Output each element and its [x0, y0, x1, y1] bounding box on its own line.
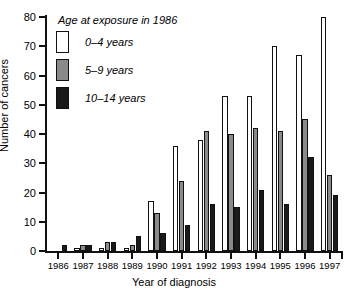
legend-title: Age at exposure in 1986 [58, 14, 177, 26]
legend-entry: 10–14 years [56, 87, 177, 109]
y-tick-mark [39, 162, 46, 164]
x-tick-label: 1995 [270, 261, 291, 271]
bar-group [272, 17, 290, 251]
x-tick-label: 1993 [220, 261, 241, 271]
legend-swatch [56, 59, 69, 81]
y-tick-label: 10 [0, 216, 36, 227]
x-tick-mark [230, 253, 232, 259]
y-axis-title: Number of cancers [0, 59, 10, 152]
y-tick-label: 70 [0, 41, 36, 52]
bar [204, 131, 210, 251]
x-axis-title: Year of diagnosis [0, 276, 348, 288]
x-tick-label: 1986 [48, 261, 69, 271]
x-tick-mark [131, 253, 133, 259]
legend: Age at exposure in 1986 0–4 years5–9 yea… [56, 14, 177, 115]
y-tick-mark [39, 192, 46, 194]
x-tick-label: 1991 [171, 261, 192, 271]
legend-entry: 0–4 years [56, 31, 177, 53]
bar [210, 204, 216, 251]
x-tick-label: 1992 [196, 261, 217, 271]
x-tick-mark [304, 253, 306, 259]
y-tick-label: 30 [0, 158, 36, 169]
bar [278, 131, 284, 251]
bar [154, 213, 160, 251]
x-tick-mark [205, 253, 207, 259]
y-tick-mark [39, 133, 46, 135]
bar [62, 245, 68, 251]
bar [253, 128, 259, 251]
bar [321, 17, 327, 251]
legend-swatch [56, 31, 69, 53]
bar [327, 175, 333, 251]
x-axis-line [45, 251, 343, 253]
y-tick-label: 20 [0, 187, 36, 198]
bar-group [296, 17, 314, 251]
x-tick-mark [156, 253, 158, 259]
legend-label: 5–9 years [85, 64, 133, 76]
bar [160, 233, 166, 251]
bar [308, 157, 314, 251]
x-tick-mark [107, 253, 109, 259]
bar [99, 248, 105, 251]
y-tick-mark [39, 104, 46, 106]
bar [185, 225, 191, 251]
bar [111, 242, 117, 251]
bar [234, 207, 240, 251]
chart-figure: 01020304050607080 Number of cancers 1986… [0, 0, 348, 292]
x-tick-label: 1990 [146, 261, 167, 271]
y-tick-mark [39, 221, 46, 223]
legend-label: 10–14 years [85, 92, 146, 104]
bar [198, 140, 204, 251]
x-tick-label: 1997 [319, 261, 340, 271]
y-tick-label: 0 [0, 246, 36, 257]
x-tick-label: 1994 [245, 261, 266, 271]
legend-entries: 0–4 years5–9 years10–14 years [56, 31, 177, 109]
x-tick-label: 1996 [294, 261, 315, 271]
x-tick-label: 1989 [122, 261, 143, 271]
bar [296, 55, 302, 251]
x-tick-mark [329, 253, 331, 259]
bar [333, 195, 339, 251]
bar [247, 96, 253, 251]
legend-entry: 5–9 years [56, 59, 177, 81]
legend-label: 0–4 years [85, 36, 133, 48]
bar [136, 236, 142, 251]
bar-group [198, 17, 216, 251]
y-tick-mark [39, 45, 46, 47]
x-tick-mark [82, 253, 84, 259]
y-tick-mark [39, 16, 46, 18]
bar-group [247, 17, 265, 251]
bar [86, 245, 92, 251]
bar [80, 245, 86, 251]
legend-swatch [56, 87, 69, 109]
bar [259, 190, 265, 251]
x-tick-mark [341, 253, 343, 259]
bar [105, 242, 111, 251]
bar [130, 245, 136, 251]
bar [284, 204, 290, 251]
x-tick-label: 1987 [72, 261, 93, 271]
bar [228, 134, 234, 251]
bar [179, 181, 185, 251]
bar [173, 146, 179, 251]
bar [222, 96, 228, 251]
x-tick-mark [255, 253, 257, 259]
x-tick-label: 1988 [97, 261, 118, 271]
y-tick-label: 80 [0, 12, 36, 23]
bar [302, 119, 308, 251]
bar-group [321, 17, 339, 251]
bar [74, 248, 80, 251]
x-tick-mark [57, 253, 59, 259]
bar [148, 201, 154, 251]
x-tick-mark [279, 253, 281, 259]
x-tick-mark [181, 253, 183, 259]
bar [124, 248, 130, 251]
bar [272, 46, 278, 251]
bar-group [222, 17, 240, 251]
y-tick-mark [39, 75, 46, 77]
